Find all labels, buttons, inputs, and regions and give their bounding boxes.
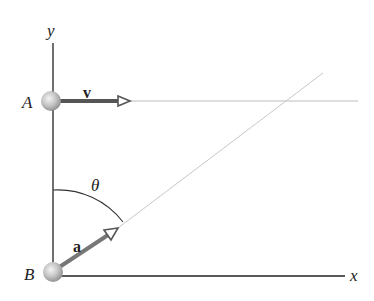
theta-label: θ [91, 176, 99, 195]
velocity-label: v [83, 84, 91, 101]
sphere-B [43, 262, 63, 282]
acceleration-vector-shaft [58, 235, 108, 268]
velocity-arrowhead-icon [118, 96, 130, 106]
y-axis-label: y [45, 21, 55, 40]
acceleration-guide-line [118, 73, 323, 228]
diagram-canvas: y x A B v a θ [0, 0, 374, 301]
x-axis-label: x [349, 266, 358, 285]
point-B-label: B [24, 265, 35, 284]
theta-arc [53, 190, 123, 222]
sphere-A [41, 91, 61, 111]
point-A-label: A [21, 93, 33, 112]
acceleration-label: a [73, 238, 81, 255]
